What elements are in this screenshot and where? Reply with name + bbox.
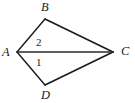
edge-dc: [45, 52, 113, 85]
vertex-label-b: B: [41, 1, 49, 14]
geometry-figure: A B C D 2 1: [0, 0, 135, 103]
angle-label-2: 2: [36, 37, 42, 48]
figure-canvas: [0, 0, 135, 103]
vertex-label-c: C: [121, 45, 129, 58]
angle-label-1: 1: [36, 57, 42, 68]
edge-bc: [45, 19, 113, 52]
vertex-label-d: D: [41, 89, 50, 102]
vertex-label-a: A: [2, 46, 10, 59]
